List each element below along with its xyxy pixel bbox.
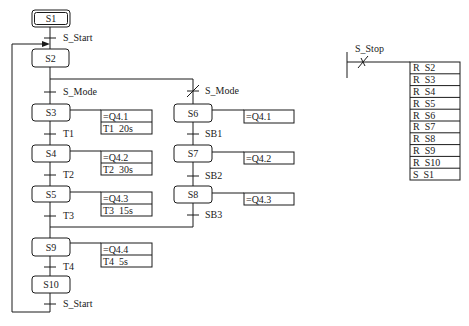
- step-s10: S10: [32, 276, 70, 293]
- step-label: S10: [43, 279, 59, 290]
- action-timer: T1 20s: [103, 123, 133, 134]
- step-label: S1: [46, 13, 57, 24]
- transition-label-s-start: S_Start: [63, 32, 93, 43]
- transition-label-t1: T1: [63, 128, 74, 139]
- coil-entry: S S1: [413, 169, 434, 180]
- transition-label-t4: T4: [63, 261, 74, 272]
- step-label: S6: [188, 108, 199, 119]
- stop-rung: S_Stop R S2R S3R S4R S5R S6R S7R S8R S9R…: [347, 43, 460, 180]
- step-s6: S6 =Q4.1: [174, 104, 294, 123]
- step-label: S9: [46, 242, 57, 253]
- coil-entry: R S9: [413, 145, 435, 156]
- initial-step-s1: S1: [32, 10, 70, 27]
- transition-label-sb2: SB2: [205, 170, 222, 181]
- coil-entry: R S6: [413, 110, 435, 121]
- action-output: =Q4.1: [246, 111, 271, 122]
- transition-label-t2: T2: [63, 169, 74, 180]
- step-label: S3: [46, 107, 57, 118]
- coil-entry: R S5: [413, 98, 435, 109]
- action-timer: T3 15s: [103, 205, 133, 216]
- transition-label-sb1: SB1: [205, 128, 222, 139]
- action-output: =Q4.1: [103, 111, 128, 122]
- transition-label-s-mode: S_Mode: [63, 86, 97, 97]
- sfc-diagram: S1 S_Start S2 S_Mode S_Mode S3 =Q4.1 T1 …: [0, 0, 469, 326]
- return-loop-line: [12, 44, 50, 312]
- coil-entry: R S8: [413, 133, 435, 144]
- transition-label-sb3: SB3: [205, 209, 222, 220]
- step-label: S8: [188, 189, 199, 200]
- transition-label-not-s-mode: S_Mode: [205, 85, 239, 96]
- step-s7: S7 =Q4.2: [174, 145, 294, 164]
- action-output: =Q4.3: [103, 193, 128, 204]
- contact-label: S_Stop: [355, 43, 384, 54]
- action-timer: T4 5s: [103, 256, 128, 267]
- step-label: S2: [45, 53, 56, 64]
- action-output: =Q4.3: [246, 194, 271, 205]
- coil-entry: R S2: [413, 62, 435, 73]
- coil-entry: R S3: [413, 74, 435, 85]
- action-output: =Q4.2: [103, 152, 128, 163]
- step-s2: S2: [32, 49, 69, 67]
- coil-entry: R S10: [413, 157, 440, 168]
- coil-entry: R S4: [413, 86, 435, 97]
- step-label: S7: [188, 148, 199, 159]
- arrow-right-icon: [42, 41, 50, 47]
- transition-label-s-start: S_Start: [63, 298, 93, 309]
- transition-label-t3: T3: [63, 210, 74, 221]
- action-timer: T2 30s: [103, 164, 133, 175]
- step-s8: S8 =Q4.3: [174, 186, 294, 205]
- coil-entry: R S7: [413, 121, 435, 132]
- action-output: =Q4.2: [246, 153, 271, 164]
- step-label: S4: [46, 148, 57, 159]
- action-output: =Q4.4: [103, 244, 128, 255]
- step-label: S5: [46, 189, 57, 200]
